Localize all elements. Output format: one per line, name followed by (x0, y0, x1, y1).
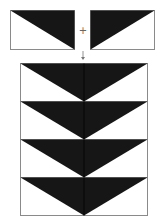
right-half-unit (91, 11, 155, 50)
flying-geese-diagram: + (0, 0, 161, 224)
down-arrow-icon (81, 51, 85, 60)
left-half-unit (11, 11, 75, 50)
plus-operator: + (79, 25, 87, 36)
assembled-geese-column (21, 64, 148, 216)
